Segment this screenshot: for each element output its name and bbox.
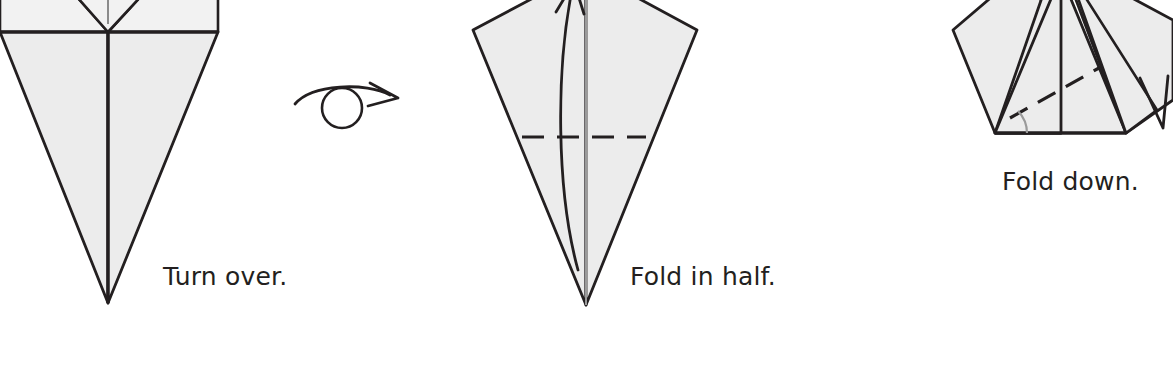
- caption-turn-over: Turn over.: [163, 264, 287, 289]
- caption-fold-down: Fold down.: [1002, 169, 1139, 194]
- figure3-group: [953, 0, 1173, 133]
- figure-fold-down: [0, 0, 1173, 384]
- origami-instruction-sheet: Turn over. Fold in half. Fold down.: [0, 0, 1173, 384]
- caption-fold-in-half: Fold in half.: [630, 264, 776, 289]
